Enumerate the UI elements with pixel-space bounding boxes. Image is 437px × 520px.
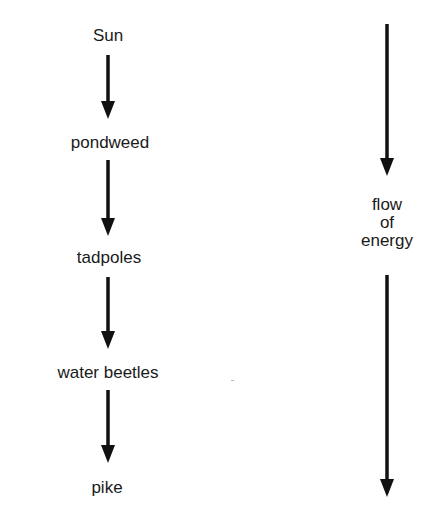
node-tadpoles: tadpoles xyxy=(77,248,141,268)
arrow-down-icon xyxy=(101,160,115,236)
arrow-down-icon xyxy=(101,55,115,119)
node-water-beetles: water beetles xyxy=(57,363,158,383)
flow-arrow-bottom-icon xyxy=(380,275,394,497)
scan-artifact xyxy=(231,380,234,381)
flow-arrow-top-icon xyxy=(380,24,394,176)
arrow-down-icon xyxy=(101,277,115,349)
flow-label-line: flow xyxy=(361,196,413,214)
flow-label-line: of xyxy=(361,214,413,232)
node-pondweed: pondweed xyxy=(71,133,149,153)
flow-of-energy-label: flow of energy xyxy=(361,196,413,250)
arrow-down-icon xyxy=(101,390,115,463)
node-sun: Sun xyxy=(93,26,123,46)
node-pike: pike xyxy=(91,478,122,498)
flow-label-line: energy xyxy=(361,232,413,250)
